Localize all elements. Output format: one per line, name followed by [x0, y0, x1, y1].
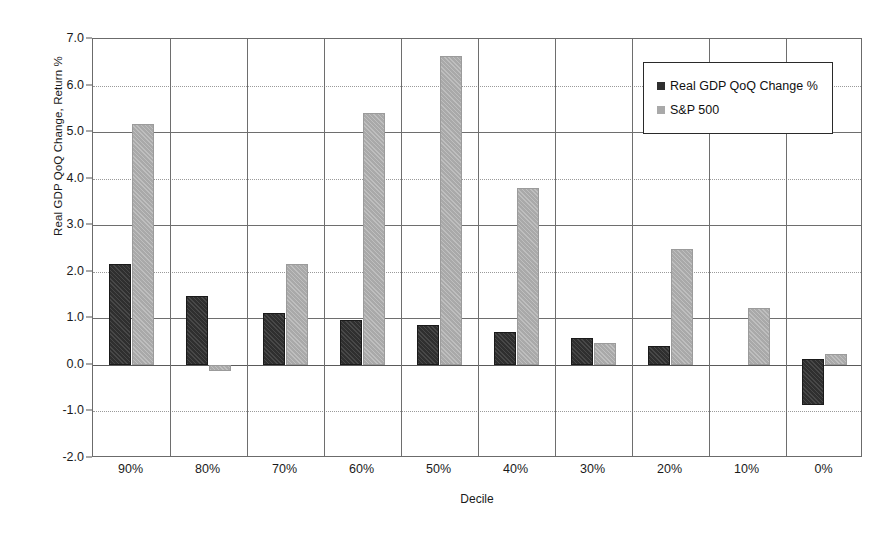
y-axis-tick-label: 2.0 — [36, 265, 84, 278]
y-axis-tick-mark — [86, 224, 92, 225]
x-axis-tick-label: 60% — [323, 462, 400, 476]
legend-item: Real GDP QoQ Change % — [657, 74, 832, 98]
y-axis-tick-mark — [86, 131, 92, 132]
bar-sp500-50pct — [440, 56, 462, 365]
y-axis-tick-mark — [86, 457, 92, 458]
legend-label: S&P 500 — [670, 104, 719, 117]
bar-sp500-70pct — [286, 264, 308, 365]
y-axis-tick-mark — [86, 410, 92, 411]
y-axis-tick-label: 0.0 — [36, 358, 84, 371]
x-axis-tick-label: 50% — [400, 462, 477, 476]
bar-sp500-60pct — [363, 113, 385, 364]
legend-label: Real GDP QoQ Change % — [670, 80, 818, 93]
x-axis-tick-labels: 90%80%70%60%50%40%30%20%10%0% — [92, 462, 862, 484]
bar-gdp-80pct — [186, 296, 208, 365]
bar-gdp-0pct — [802, 359, 824, 406]
x-axis-tick-label: 70% — [246, 462, 323, 476]
legend-item: S&P 500 — [657, 98, 832, 122]
x-axis-title: Decile — [92, 492, 862, 506]
y-axis-tick-mark — [86, 84, 92, 85]
bar-sp500-10pct — [748, 308, 770, 365]
bar-sp500-90pct — [132, 124, 154, 365]
chart-legend: Real GDP QoQ Change %S&P 500 — [643, 62, 833, 134]
bar-gdp-90pct — [109, 264, 131, 365]
x-axis-tick-label: 10% — [708, 462, 785, 476]
x-axis-tick-label: 20% — [631, 462, 708, 476]
y-axis-tick-label: 3.0 — [36, 218, 84, 231]
bar-sp500-80pct — [209, 365, 231, 371]
x-axis-tick-label: 90% — [92, 462, 169, 476]
bar-chart: Real GDP QoQ Change, Return % 7.06.05.04… — [0, 0, 895, 541]
y-axis-tick-labels: 7.06.05.04.03.02.01.00.0-1.0-2.0 — [36, 0, 84, 541]
y-axis-tick-mark — [86, 270, 92, 271]
bar-gdp-70pct — [263, 313, 285, 365]
bar-gdp-50pct — [417, 325, 439, 365]
y-axis-tick-label: -2.0 — [36, 451, 84, 464]
legend-swatch-sp-icon — [657, 106, 665, 114]
x-axis-tick-label: 0% — [785, 462, 862, 476]
x-axis-tick-label: 30% — [554, 462, 631, 476]
y-axis-tick-label: 5.0 — [36, 125, 84, 138]
y-axis-tick-mark — [86, 317, 92, 318]
y-axis-tick-label: -1.0 — [36, 404, 84, 417]
bar-gdp-30pct — [571, 338, 593, 365]
bar-sp500-40pct — [517, 188, 539, 365]
y-axis-tick-label: 4.0 — [36, 171, 84, 184]
bar-gdp-60pct — [340, 320, 362, 365]
y-axis-tick-mark — [86, 38, 92, 39]
y-axis-tick-mark — [86, 177, 92, 178]
bar-gdp-20pct — [648, 346, 670, 365]
x-axis-tick-label: 40% — [477, 462, 554, 476]
y-axis-tick-label: 6.0 — [36, 78, 84, 91]
legend-swatch-gdp-icon — [657, 82, 665, 90]
bar-sp500-20pct — [671, 249, 693, 365]
x-axis-tick-label: 80% — [169, 462, 246, 476]
bar-sp500-0pct — [825, 354, 847, 365]
bar-gdp-40pct — [494, 332, 516, 365]
y-axis-tick-label: 7.0 — [36, 32, 84, 45]
bar-sp500-30pct — [594, 343, 616, 365]
y-axis-tick-mark — [86, 363, 92, 364]
y-axis-tick-label: 1.0 — [36, 311, 84, 324]
